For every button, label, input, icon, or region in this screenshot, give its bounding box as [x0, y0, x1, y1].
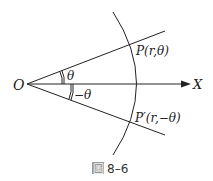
point-upper-label: P(r,θ): [135, 44, 169, 58]
lower-ray: [27, 84, 165, 135]
x-axis-arrowhead: [181, 81, 191, 88]
angle-upper-label: θ: [67, 69, 75, 83]
point-lower-label: P′(r,−θ): [134, 111, 181, 125]
angle-arc-lower-inner: [69, 84, 71, 99]
caption-number: 8–6: [107, 162, 128, 176]
origin-label: O: [13, 77, 25, 93]
caption-icon: 圖: [93, 163, 104, 176]
angle-lower-label: −θ: [74, 88, 92, 102]
angle-arc-upper-inner: [60, 72, 62, 84]
polar-symmetry-diagram: O X θ −θ P(r,θ) P′(r,−θ) 圖 8–6: [0, 0, 213, 181]
x-axis-label: X: [192, 77, 203, 92]
